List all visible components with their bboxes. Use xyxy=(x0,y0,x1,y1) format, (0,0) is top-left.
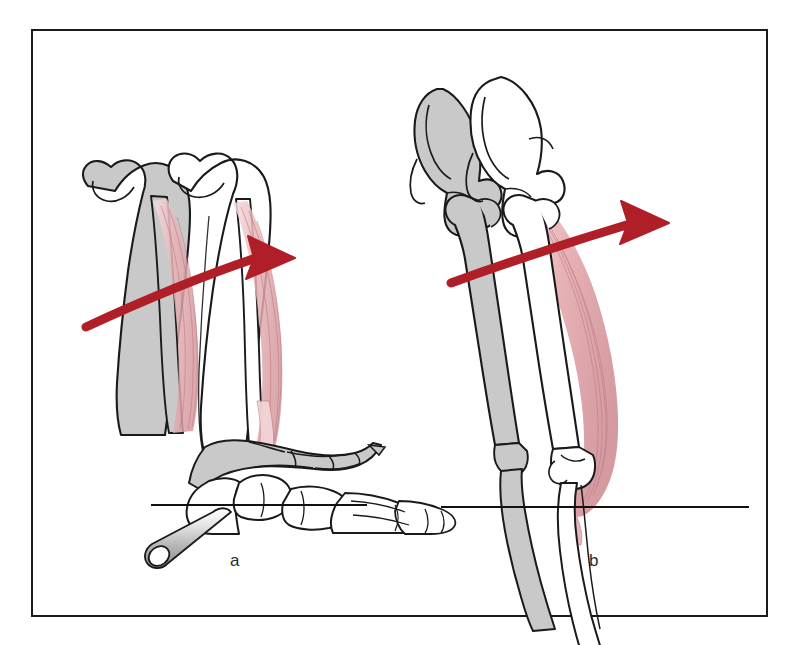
figure-root: a b xyxy=(0,0,802,645)
panel-b xyxy=(401,31,770,615)
panel-label-b: b xyxy=(589,551,599,571)
panel-a xyxy=(33,31,401,615)
figure-frame: a b xyxy=(31,29,768,617)
panel-label-a: a xyxy=(230,551,240,571)
